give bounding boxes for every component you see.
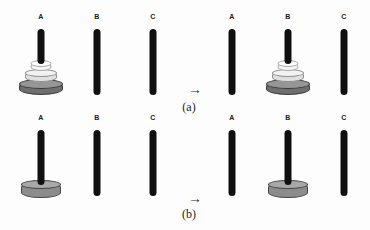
row-a-before-state: ABC (17, 11, 177, 95)
row-a-after-state: ABC (208, 11, 368, 95)
peg-rod (94, 29, 101, 95)
peg-label: B (73, 13, 121, 20)
peg-C: C (129, 11, 177, 95)
peg-A: A (17, 11, 65, 95)
peg-rod (38, 29, 45, 64)
row-b-after-state: ABC (208, 112, 368, 196)
peg-label: C (129, 114, 177, 121)
peg-B: B (73, 112, 121, 196)
peg-rod (285, 130, 292, 185)
move-arrow-b: → (184, 192, 206, 206)
peg-rod (94, 130, 101, 196)
peg-C: C (129, 112, 177, 196)
left-edge-text-fragments: rle:eaiestiet (0, 0, 4, 230)
peg-rod (341, 130, 348, 196)
peg-A: A (208, 11, 256, 95)
peg-B: B (73, 11, 121, 95)
peg-label: A (17, 13, 65, 20)
peg-B: B (264, 11, 312, 95)
hanoi-figure: rle:eaiestiet ABC ABC → (a) ABC ABC → (b… (0, 0, 370, 230)
peg-C: C (320, 11, 368, 95)
peg-label: A (17, 114, 65, 121)
peg-B: B (264, 112, 312, 196)
peg-rod (229, 130, 236, 196)
caption-a: (a) (174, 101, 204, 114)
peg-rod (150, 29, 157, 95)
peg-label: C (320, 13, 368, 20)
peg-rod (150, 130, 157, 196)
peg-A: A (17, 112, 65, 196)
peg-label: B (264, 13, 312, 20)
peg-label: A (208, 114, 256, 121)
peg-label: B (264, 114, 312, 121)
peg-label: B (73, 114, 121, 121)
peg-C: C (320, 112, 368, 196)
row-b-before-state: ABC (17, 112, 177, 196)
caption-b: (b) (174, 208, 204, 221)
peg-rod (285, 29, 292, 64)
peg-rod (341, 29, 348, 95)
move-arrow-a: → (184, 83, 206, 97)
peg-rod (229, 29, 236, 95)
peg-rod (38, 130, 45, 185)
peg-label: C (320, 114, 368, 121)
peg-label: C (129, 13, 177, 20)
peg-A: A (208, 112, 256, 196)
peg-label: A (208, 13, 256, 20)
